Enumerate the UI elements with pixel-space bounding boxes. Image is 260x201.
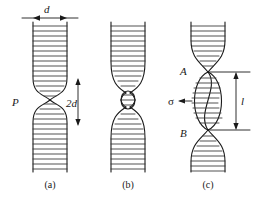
panel-b-geometry	[111, 22, 145, 172]
load-label-p: P	[12, 97, 19, 108]
point-label-b: B	[180, 128, 187, 139]
dimension-label-d: d	[44, 4, 50, 15]
stress-label-sigma: σ	[168, 96, 174, 107]
panel-caption-c: (c)	[192, 180, 224, 190]
dimension-label-l: l	[241, 96, 244, 107]
panel-c-sigma-arrow	[178, 98, 192, 103]
panel-caption-b: (b)	[112, 180, 144, 190]
panel-b-hatching	[111, 26, 145, 169]
panel-caption-a: (a)	[34, 180, 66, 190]
panel-c-geometry	[191, 22, 225, 172]
panel-a-dimension-d	[22, 15, 78, 20]
dimension-label-2d: 2d	[66, 98, 77, 109]
panel-a-geometry	[33, 22, 67, 172]
panel-c-s-curve	[205, 72, 212, 130]
point-label-a: A	[180, 66, 187, 77]
figure-diagram-svg	[0, 0, 260, 201]
panel-a-hatching	[33, 26, 67, 169]
figure-root: d P 2d A B σ l (a) (b) (c)	[0, 0, 260, 201]
